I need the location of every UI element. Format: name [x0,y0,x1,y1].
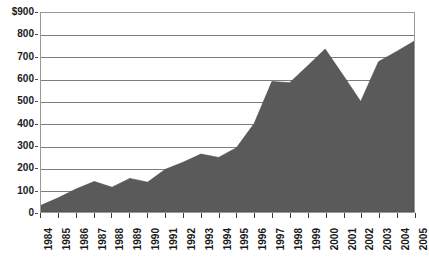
y-tick-mark [35,213,38,214]
x-tick-mark [236,213,237,218]
x-tick-label: 1990 [151,228,161,250]
y-tick-label: 100 [17,186,34,196]
x-tick-label: 2005 [419,228,429,250]
x-tick-label: 2000 [330,228,340,250]
y-tick-label: 800 [17,29,34,39]
x-tick-mark [308,213,309,218]
y-tick-mark [35,168,38,169]
area-chart: 0100200300400500600700800$900 1984198519… [0,0,429,280]
x-tick-mark [219,213,220,218]
x-tick-mark [147,213,148,218]
x-tick-mark [58,213,59,218]
x-tick-mark [129,213,130,218]
x-tick-label: 1988 [115,228,125,250]
y-tick-mark [35,57,38,58]
area-series [41,13,414,212]
x-tick-mark [183,213,184,218]
y-tick-label: 300 [17,141,34,151]
x-tick-mark [254,213,255,218]
x-tick-mark [40,213,41,218]
area-polygon [41,41,414,212]
y-axis: 0100200300400500600700800$900 [0,0,38,225]
x-tick-mark [111,213,112,218]
x-tick-label: 1985 [62,228,72,250]
x-tick-label: 1994 [223,228,233,250]
x-tick-label: 1987 [98,228,108,250]
x-tick-mark [361,213,362,218]
x-tick-mark [415,213,416,218]
y-tick-label: 200 [17,163,34,173]
x-tick-label: 1996 [258,228,268,250]
x-tick-label: 2004 [401,228,411,250]
x-tick-mark [290,213,291,218]
x-tick-label: 1991 [169,228,179,250]
x-tick-label: 2003 [383,228,393,250]
x-tick-label: 1989 [133,228,143,250]
x-tick-mark [94,213,95,218]
y-tick-mark [35,34,38,35]
y-tick-label: 400 [17,119,34,129]
y-tick-mark [35,12,38,13]
x-tick-label: 1986 [80,228,90,250]
y-tick-mark [35,191,38,192]
plot-area [40,12,415,213]
x-tick-mark [397,213,398,218]
x-tick-label: 1993 [205,228,215,250]
x-tick-mark [379,213,380,218]
x-tick-mark [326,213,327,218]
x-tick-label: 2001 [348,228,358,250]
x-tick-mark [201,213,202,218]
x-tick-mark [344,213,345,218]
y-tick-label: 600 [17,74,34,84]
x-tick-label: 1998 [294,228,304,250]
x-tick-mark [165,213,166,218]
y-tick-label: 500 [17,96,34,106]
x-tick-mark [272,213,273,218]
y-tick-mark [35,101,38,102]
x-tick-label: 1995 [240,228,250,250]
y-tick-mark [35,124,38,125]
x-tick-label: 1997 [276,228,286,250]
y-tick-label: $900 [12,7,34,17]
x-tick-label: 1984 [44,228,54,250]
x-tick-label: 1999 [312,228,322,250]
y-tick-label: 0 [28,208,34,218]
y-tick-label: 700 [17,52,34,62]
x-axis: 1984198519861987198819891990199119921993… [40,213,415,280]
x-tick-label: 1992 [187,228,197,250]
x-tick-mark [76,213,77,218]
y-tick-mark [35,79,38,80]
y-tick-mark [35,146,38,147]
x-tick-label: 2002 [365,228,375,250]
